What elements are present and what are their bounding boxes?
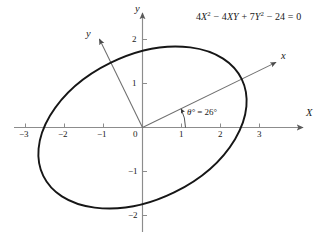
- y-axis: [143, 13, 148, 232]
- x-tick-label-neg2: −2: [58, 130, 68, 139]
- y-tick-label-neg1: −1: [128, 167, 138, 176]
- x-axis-label: X: [306, 108, 312, 119]
- x-tick-label-3: 3: [257, 130, 262, 139]
- rotated-x-axis-label: x: [281, 51, 286, 62]
- origin-label: 0: [133, 130, 138, 139]
- y-tick-label-neg2: −2: [128, 211, 138, 220]
- x-axis: [14, 124, 303, 128]
- y-axis-label: y: [135, 4, 140, 15]
- x-tick-label-1: 1: [179, 130, 184, 139]
- rotated-y-axis-label: y: [86, 29, 91, 40]
- x-tick-label-2: 2: [218, 130, 223, 139]
- rotation-angle-label: θ° = 26°: [187, 108, 217, 117]
- conic-equation-label: 4X2 − 4XY + 7Y2 − 24 = 0: [196, 12, 301, 22]
- y-tick-label-1: 1: [132, 79, 137, 88]
- y-tick-label-2: 2: [132, 35, 137, 44]
- conic-rotation-figure: 4X2 − 4XY + 7Y2 − 24 = 0 θ° = 26° X y x …: [0, 0, 328, 242]
- x-tick-label-neg3: −3: [19, 130, 29, 139]
- plot-canvas: [0, 0, 328, 242]
- rotated-x-axis: [143, 62, 277, 127]
- x-tick-label-neg1: −1: [97, 130, 107, 139]
